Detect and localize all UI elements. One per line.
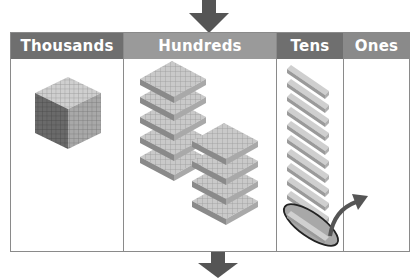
header-thousands: Thousands: [11, 33, 124, 59]
hundred-flats-icon: [134, 61, 274, 253]
regroup-curved-arrow-icon: [326, 188, 370, 240]
cell-hundreds: [124, 59, 277, 251]
header-tens: Tens: [277, 33, 344, 59]
thousand-cube-icon: [33, 75, 103, 151]
cell-thousands: [11, 59, 124, 251]
bottom-down-arrow-icon: [196, 252, 240, 278]
header-hundreds: Hundreds: [124, 33, 277, 59]
chart-header-row: Thousands Hundreds Tens Ones: [11, 33, 409, 59]
header-ones: Ones: [344, 33, 409, 59]
top-down-arrow-icon: [187, 0, 231, 34]
